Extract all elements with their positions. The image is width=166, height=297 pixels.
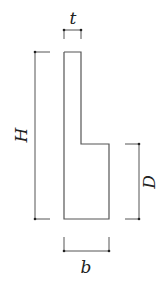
t-dimension: t [63, 8, 83, 39]
section-diagram: t H D b [0, 0, 166, 297]
d-dimension: D [125, 143, 159, 221]
d-label: D [139, 175, 159, 190]
b-label: b [81, 257, 92, 277]
h-label: H [11, 126, 31, 143]
b-dimension: b [63, 237, 111, 277]
t-label: t [70, 8, 77, 28]
section-outline [64, 52, 109, 219]
h-dimension: H [11, 51, 50, 221]
